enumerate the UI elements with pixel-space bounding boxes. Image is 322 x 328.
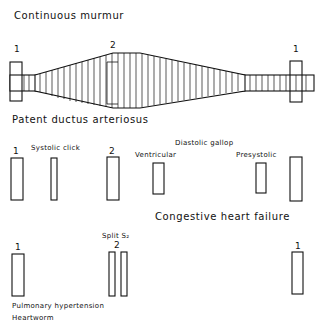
pda-s1-label: 1 — [13, 147, 19, 156]
ventricular-gallop-box — [153, 163, 164, 194]
systolic-click-box — [51, 158, 57, 200]
chf-s1-label: 1 — [15, 243, 21, 252]
s1-right-label: 1 — [293, 45, 299, 54]
chf-s2-label: 2 — [114, 241, 120, 250]
pda-s2-label: 2 — [109, 147, 115, 156]
chf-s1-right-label: 1 — [295, 242, 301, 251]
pda-s2-box — [107, 157, 119, 200]
pda-s1-right-box — [290, 157, 302, 201]
continuous-murmur-figure — [10, 53, 314, 108]
pulmonary-hypertension-caption: Pulmonary hypertension — [12, 303, 104, 310]
ventricular-label: Ventricular — [135, 152, 176, 159]
chf-s1-box — [12, 254, 24, 296]
heartworm-caption: Heartworm — [12, 315, 54, 322]
s1-left-box — [10, 62, 22, 101]
split-s2-b-box — [121, 252, 127, 296]
systolic-click-label: Systolic click — [31, 145, 80, 152]
chf-row-figure — [12, 252, 303, 296]
chf-title: Congestive heart failure — [155, 212, 290, 222]
diastolic-gallop-label: Diastolic gallop — [175, 140, 233, 147]
murmur-spindle — [35, 53, 245, 108]
split-s2-label: Split S₂ — [102, 233, 129, 240]
split-s2-a-box — [109, 252, 115, 296]
pda-s1-box — [11, 158, 23, 200]
chf-s1-right-box — [292, 252, 303, 294]
presystolic-label: Presystolic — [236, 152, 277, 159]
pda-title: Patent ductus arteriosus — [12, 115, 149, 125]
heart-sound-diagram — [0, 0, 322, 328]
s2-label: 2 — [110, 41, 116, 50]
s1-left-label: 1 — [14, 45, 20, 54]
presystolic-gallop-box — [256, 163, 266, 193]
continuous-murmur-title: Continuous murmur — [14, 11, 124, 21]
gallop-row-figure — [11, 157, 302, 201]
